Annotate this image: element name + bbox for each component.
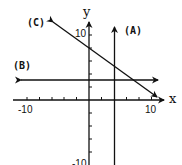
y-axis-label: y: [83, 5, 90, 18]
line-a-label: (A): [124, 26, 142, 36]
x-tick-label-10: 10: [145, 105, 156, 115]
x-tick-label-neg10: -10: [18, 105, 32, 115]
y-tick-label-10: 10: [75, 29, 86, 39]
y-tick-label-neg10: -10: [72, 159, 86, 165]
line-c-label: (C): [27, 18, 45, 28]
y-axis: [89, 22, 92, 165]
line-b-label: (B): [13, 61, 31, 71]
x-axis-label: x: [169, 92, 176, 105]
